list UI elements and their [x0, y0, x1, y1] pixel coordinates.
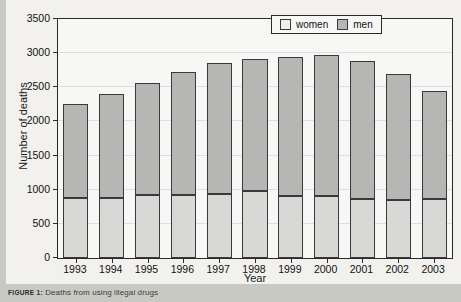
bar-1996	[171, 72, 196, 258]
bar-segment-women	[99, 198, 124, 258]
y-axis-tick-label: 0	[10, 251, 50, 263]
x-axis-tick-label: 2003	[421, 263, 444, 275]
bar-segment-men	[135, 83, 160, 195]
y-axis-tick-mark	[53, 120, 57, 121]
bar-segment-women	[422, 199, 447, 258]
y-axis-tick-label: 1000	[10, 183, 50, 195]
x-axis-tick-label: 2002	[386, 263, 409, 275]
legend-label-men: men	[353, 19, 372, 30]
bar-1994	[99, 94, 124, 258]
y-axis-tick-mark	[53, 223, 57, 224]
x-axis-tick-label: 2000	[314, 263, 337, 275]
caption-prefix: FIGURE 1:	[8, 289, 43, 296]
plot-area	[57, 18, 453, 259]
bar-segment-men	[63, 104, 88, 198]
x-axis-tick-label: 1997	[206, 263, 229, 275]
bar-segment-men	[278, 57, 303, 196]
x-axis-tick-label: 1993	[63, 263, 86, 275]
legend-item-men: men	[337, 19, 372, 30]
y-axis-tick-mark	[53, 155, 57, 156]
figure-page: Number of deaths Year 050010001500200025…	[0, 0, 461, 302]
bar-1993	[63, 104, 88, 258]
x-axis-tick-label: 1994	[99, 263, 122, 275]
bar-1998	[242, 59, 267, 258]
chart-legend: women men	[271, 15, 382, 34]
bar-segment-men	[207, 63, 232, 194]
bar-segment-women	[242, 191, 267, 258]
y-axis-tick-label: 500	[10, 217, 50, 229]
bar-segment-women	[350, 199, 375, 258]
x-axis-tick-label: 1995	[135, 263, 158, 275]
y-axis-tick-mark	[53, 257, 57, 258]
legend-item-women: women	[280, 19, 328, 30]
caption-text: Deaths from using illegal drugs	[45, 288, 158, 297]
y-axis-tick-label: 2000	[10, 114, 50, 126]
bar-2000	[314, 55, 339, 258]
bar-segment-men	[386, 74, 411, 200]
x-axis-tick-label: 1998	[242, 263, 265, 275]
bar-segment-men	[350, 61, 375, 199]
y-axis-tick-label: 1500	[10, 149, 50, 161]
chart-figure: Number of deaths Year 050010001500200025…	[0, 0, 461, 284]
bar-1999	[278, 57, 303, 258]
y-axis-tick-label: 2500	[10, 80, 50, 92]
y-axis-tick-label: 3000	[10, 46, 50, 58]
legend-label-women: women	[296, 19, 328, 30]
y-axis-tick-label: 3500	[10, 12, 50, 24]
bar-segment-men	[99, 94, 124, 198]
figure-caption: FIGURE 1: Deaths from using illegal drug…	[8, 288, 158, 297]
bar-segment-women	[63, 198, 88, 258]
legend-swatch-women	[280, 19, 291, 30]
bar-segment-men	[171, 72, 196, 194]
bar-segment-men	[242, 59, 267, 191]
bar-segment-men	[314, 55, 339, 196]
bar-segment-women	[314, 196, 339, 258]
gridline	[58, 52, 452, 53]
bar-1995	[135, 83, 160, 258]
y-axis-tick-mark	[53, 18, 57, 19]
bar-2002	[386, 74, 411, 258]
bar-segment-women	[386, 200, 411, 258]
bar-segment-women	[207, 194, 232, 258]
y-axis-tick-mark	[53, 189, 57, 190]
bar-segment-men	[422, 91, 447, 199]
y-axis-tick-mark	[53, 86, 57, 87]
bar-segment-women	[278, 196, 303, 258]
x-axis-tick-label: 1996	[171, 263, 194, 275]
bar-segment-women	[171, 195, 196, 259]
x-axis-tick-label: 1999	[278, 263, 301, 275]
legend-swatch-men	[337, 19, 348, 30]
bar-segment-women	[135, 195, 160, 259]
bar-2001	[350, 61, 375, 258]
bar-1997	[207, 63, 232, 258]
bar-2003	[422, 91, 447, 258]
x-axis-tick-label: 2001	[350, 263, 373, 275]
y-axis-tick-mark	[53, 52, 57, 53]
